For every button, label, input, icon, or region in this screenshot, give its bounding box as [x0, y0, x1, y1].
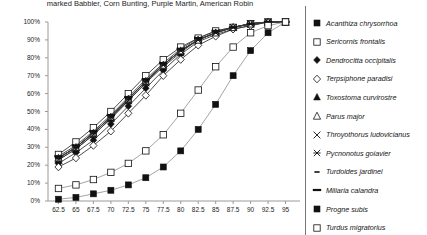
marker-filled-triangle [314, 94, 321, 101]
legend-item[interactable]: Acanthiza chrysorrhoa [310, 14, 398, 32]
open-diamond-icon [310, 72, 324, 86]
legend-item-label: Miliaria calandra [326, 186, 378, 195]
y-axis-tick-label: 20% [14, 161, 40, 168]
legend-item-label: Dendrocitta occipitalis [326, 56, 396, 65]
marker-open-square-small [125, 160, 131, 166]
x-cross-icon [310, 128, 324, 142]
marker-open-square-small [282, 19, 288, 25]
marker-open-square-small [108, 169, 114, 175]
y-axis-tick-label: 80% [14, 54, 40, 61]
marker-open-square [314, 38, 320, 44]
filled-diamond-icon [310, 53, 324, 67]
y-axis-tick-label: 10% [14, 179, 40, 186]
open-square-icon [310, 35, 324, 49]
marker-filled-square-small [265, 30, 271, 36]
open-square-small-icon [310, 221, 324, 235]
legend-item[interactable]: Miliaria calandra [310, 181, 378, 199]
marker-filled-square-small [90, 191, 96, 197]
legend-item[interactable]: Parus major [310, 107, 365, 125]
marker-open-square-small [90, 176, 96, 182]
y-axis-tick-label: 50% [14, 108, 40, 115]
y-axis-tick-label: 70% [14, 72, 40, 79]
marker-open-square-small [160, 132, 166, 138]
marker-x-cross [314, 131, 321, 138]
legend-item[interactable]: Toxostoma curvirostre [310, 88, 396, 106]
legend-item-label: Pycnonotus goiavier [326, 149, 391, 158]
marker-filled-square-small [248, 48, 254, 54]
legend-item[interactable]: Dendrocitta occipitalis [310, 51, 396, 69]
marker-open-square-small [178, 110, 184, 116]
marker-open-square-small [314, 224, 320, 230]
series-6 [55, 19, 289, 164]
legend-item-label: Throyothorus ludovicianus [326, 130, 410, 139]
marker-open-triangle [313, 112, 320, 119]
marker-filled-square-small [143, 175, 149, 181]
legend-item[interactable]: Progne subis [310, 200, 368, 218]
dash-short-icon [310, 165, 324, 179]
marker-open-square-small [212, 64, 218, 70]
legend-item-label: Terpsiphone paradisi [326, 74, 392, 83]
filled-square-icon [310, 16, 324, 30]
legend-item-label: Sericornis frontalis [326, 37, 385, 46]
y-axis-tick-label: 100% [14, 18, 40, 25]
marker-filled-square-small [314, 206, 320, 212]
asterisk-icon [310, 146, 324, 160]
marker-filled-square-small [55, 196, 61, 202]
legend-item[interactable]: Sericornis frontalis [310, 33, 385, 51]
axes [45, 22, 300, 204]
marker-open-square-small [55, 185, 61, 191]
marker-open-diamond [72, 154, 79, 162]
y-axis-tick-label: 60% [14, 90, 40, 97]
legend-item-label: Parus major [326, 112, 365, 121]
marker-filled-square-small [178, 148, 184, 154]
legend-item[interactable]: Terpsiphone paradisi [310, 70, 392, 88]
marker-filled-square [314, 20, 320, 26]
marker-open-square-small [73, 182, 79, 188]
series-4 [55, 18, 289, 162]
y-axis-tick-label: 40% [14, 125, 40, 132]
legend-item-label: Toxostoma curvirostre [326, 93, 396, 102]
plot-svg [0, 14, 302, 235]
x-axis-tick-label: 95 [274, 206, 298, 213]
marker-filled-square-small [73, 194, 79, 200]
marker-filled-square-small [160, 164, 166, 170]
legend-item-label: Acanthiza chrysorrhoa [326, 19, 398, 28]
legend-item[interactable]: Turdoides jardinei [310, 163, 383, 181]
series-10 [55, 19, 288, 202]
open-triangle-icon [310, 109, 324, 123]
marker-asterisk [313, 150, 320, 156]
marker-open-diamond [313, 75, 320, 83]
y-axis-tick-label: 90% [14, 36, 40, 43]
legend-item[interactable]: Throyothorus ludovicianus [310, 126, 410, 144]
legend-item[interactable]: Turdus migratorius [310, 219, 385, 235]
marker-open-diamond [90, 142, 97, 150]
marker-open-square-small [265, 22, 271, 28]
marker-open-square-small [230, 44, 236, 50]
plot-area: 0%10%20%30%40%50%60%70%80%90%100% 62.565… [0, 14, 302, 235]
legend-item-label: Turdoides jardinei [326, 167, 383, 176]
marker-filled-square-small [213, 101, 219, 107]
marker-filled-square-small [108, 187, 114, 193]
marker-open-square-small [195, 87, 201, 93]
marker-filled-diamond [314, 57, 321, 64]
dash-long-icon [310, 183, 324, 197]
chart-title: marked Babbler, Corn Bunting, Purple Mar… [0, 0, 300, 8]
marker-filled-square-small [125, 182, 131, 188]
marker-open-square-small [143, 148, 149, 154]
series-3 [55, 18, 289, 171]
marker-open-square-small [247, 30, 253, 36]
legend-item-label: Turdus migratorius [326, 223, 385, 232]
marker-filled-square-small [230, 73, 236, 79]
filled-square-small-icon [310, 202, 324, 216]
chart-screenshot: marked Babbler, Corn Bunting, Purple Mar… [0, 0, 427, 235]
filled-triangle-icon [310, 90, 324, 104]
legend-item[interactable]: Pycnonotus goiavier [310, 144, 391, 162]
legend-item-label: Progne subis [326, 205, 368, 214]
chart-legend: Acanthiza chrysorrhoaSericornis frontali… [305, 6, 427, 235]
series-11 [55, 19, 288, 192]
marker-filled-square-small [195, 126, 201, 132]
y-axis-tick-label: 0% [14, 197, 40, 204]
y-axis-tick-label: 30% [14, 143, 40, 150]
